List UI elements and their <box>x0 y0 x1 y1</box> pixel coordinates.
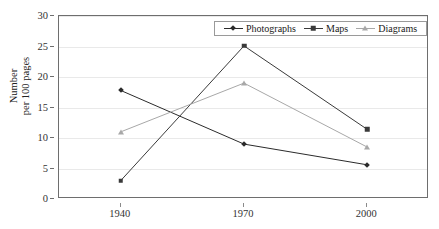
legend-sample-triangle-icon <box>356 24 375 33</box>
legend-entry-photographs[interactable]: Photographs <box>224 23 296 34</box>
data-point-diagrams-1970 <box>241 81 247 86</box>
data-point-diagrams-2000 <box>364 145 370 150</box>
y-tick-label: 30 <box>38 10 49 21</box>
series-line-maps <box>121 46 368 181</box>
y-tick-mark <box>50 76 54 77</box>
y-tick-label: 5 <box>43 162 48 173</box>
clipped-caption-text <box>30 0 410 2</box>
y-tick-mark <box>50 137 54 138</box>
x-tick-mark <box>366 203 367 207</box>
y-axis-ticks: 051015202530 <box>22 15 54 198</box>
y-tick-mark <box>50 168 54 169</box>
legend-label: Maps <box>326 23 348 34</box>
y-tick-label: 25 <box>38 40 49 51</box>
y-tick-label: 0 <box>43 193 48 204</box>
x-axis-ticks: 194019702000 <box>58 203 428 219</box>
chart-figure: Number per 100 pages 051015202530 194019… <box>0 0 439 229</box>
x-tick-mark <box>120 203 121 207</box>
x-tick-mark <box>243 203 244 207</box>
legend-label: Photographs <box>246 23 296 34</box>
x-tick-label: 1940 <box>109 208 130 219</box>
y-tick-mark <box>50 15 54 16</box>
data-point-maps-1940 <box>118 178 123 183</box>
legend-entry-diagrams[interactable]: Diagrams <box>356 23 417 34</box>
x-tick-label: 1970 <box>233 208 254 219</box>
y-tick-label: 15 <box>38 101 49 112</box>
series-line-diagrams <box>121 83 368 147</box>
y-tick-mark <box>50 107 54 108</box>
legend-label: Diagrams <box>378 23 417 34</box>
plot-area <box>58 15 428 198</box>
x-tick-label: 2000 <box>356 208 377 219</box>
legend-marker-diamond-icon <box>230 25 236 31</box>
y-tick-label: 20 <box>38 71 49 82</box>
y-tick-mark <box>50 46 54 47</box>
y-axis-title-line1: Number <box>8 38 20 134</box>
legend-sample-square-icon <box>304 24 323 33</box>
legend-marker-square-icon <box>311 26 316 31</box>
y-tick-mark <box>50 198 54 199</box>
data-point-diagrams-1940 <box>118 129 124 134</box>
y-tick-label: 10 <box>38 132 49 143</box>
legend-entry-maps[interactable]: Maps <box>304 23 348 34</box>
legend-marker-triangle-icon <box>362 26 368 31</box>
chart-legend: PhotographsMapsDiagrams <box>214 21 427 36</box>
legend-sample-diamond-icon <box>224 24 243 33</box>
data-point-maps-1970 <box>242 44 247 49</box>
data-point-maps-2000 <box>365 127 370 132</box>
